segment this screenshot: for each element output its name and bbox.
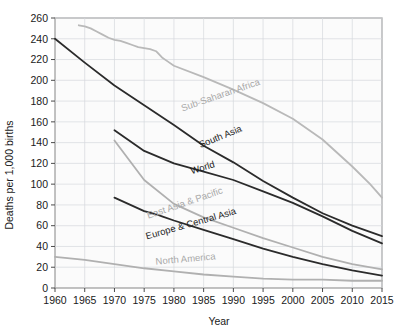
y-tick-label: 100: [30, 178, 48, 190]
x-tick-label: 2015: [370, 294, 394, 306]
x-tick-label: 2000: [281, 294, 305, 306]
x-tick-label: 2005: [311, 294, 335, 306]
x-tick-label: 1990: [222, 294, 246, 306]
y-tick-label: 40: [36, 240, 48, 252]
y-tick-label: 140: [30, 136, 48, 148]
y-axis-title: Deaths per 1,000 births: [3, 120, 15, 229]
y-tick-label: 20: [36, 261, 48, 273]
y-tick-label: 160: [30, 116, 48, 128]
x-tick-label: 1980: [162, 294, 186, 306]
y-tick-label: 240: [30, 33, 48, 45]
y-tick-label: 180: [30, 95, 48, 107]
x-axis-tick-labels: 1960196519701975198019851990199520002005…: [43, 294, 394, 306]
y-tick-label: 60: [36, 219, 48, 231]
x-tick-label: 1960: [43, 294, 67, 306]
y-tick-label: 220: [30, 53, 48, 65]
plot-area: [55, 18, 382, 288]
y-tick-label: 260: [30, 12, 48, 24]
x-tick-label: 2010: [341, 294, 365, 306]
x-tick-label: 1970: [103, 294, 127, 306]
y-tick-label: 0: [42, 282, 48, 294]
y-tick-label: 80: [36, 199, 48, 211]
y-tick-label: 200: [30, 74, 48, 86]
x-tick-label: 1975: [133, 294, 157, 306]
x-tick-label: 1985: [192, 294, 216, 306]
y-axis-tick-labels: 020406080100120140160180200220240260: [30, 12, 48, 294]
x-axis-title: Year: [208, 315, 230, 327]
x-tick-label: 1995: [251, 294, 275, 306]
line-chart: 020406080100120140160180200220240260 196…: [0, 0, 395, 331]
x-tick-label: 1965: [73, 294, 97, 306]
y-tick-label: 120: [30, 157, 48, 169]
chart-container: 020406080100120140160180200220240260 196…: [0, 0, 395, 331]
